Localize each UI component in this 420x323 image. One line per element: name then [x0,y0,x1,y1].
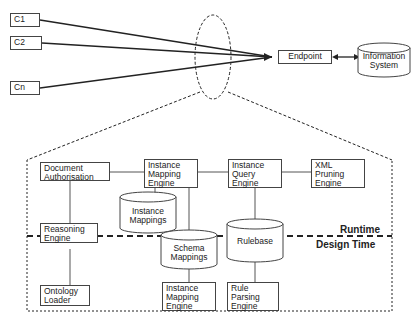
client-c1: C1 [10,13,40,27]
schema-mappings-label: SchemaMappings [161,244,217,262]
instance-query-engine-box: InstanceQueryEngine [228,159,282,188]
client-c2: C2 [10,36,42,50]
instance-mappings-label: InstanceMappings [120,207,176,225]
rule-parsing-engine-box: RuleParsingEngine [227,282,279,311]
information-system-label: InformationSystem [358,52,410,70]
endpoint-label: Endpoint [288,51,322,61]
client-label: Cn [14,82,25,92]
instance-mapping-engine-design-box: InstanceMappingEngine [162,282,216,311]
document-authorisation-box: DocumentAuthorisation [40,162,110,181]
ontology-loader-box: OntologyLoader [40,285,90,306]
endpoint-box: Endpoint [278,50,332,64]
client-label: C1 [14,14,25,24]
client-label: C2 [14,37,25,47]
reasoning-engine-box: ReasoningEngine [40,223,98,243]
instance-mapping-engine-runtime-box: InstanceMappingEngine [144,159,198,188]
rulebase-label: Rulebase [227,237,283,246]
client-cn: Cn [10,81,40,95]
design-time-label: Design Time [316,239,375,250]
runtime-label: Runtime [340,224,380,235]
xml-pruning-engine-box: XMLPruningEngine [311,159,365,188]
